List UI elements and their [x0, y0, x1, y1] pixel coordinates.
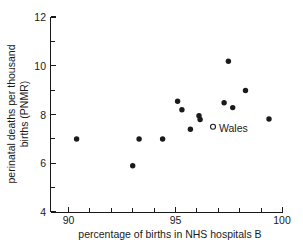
scatter-plot: 12 10 8 6 4 90 95 100 percentage of birt…: [0, 0, 303, 243]
y-axis-major-ticks: [51, 17, 57, 212]
data-point-wales: [211, 124, 216, 129]
data-point: [226, 59, 231, 64]
data-point: [266, 116, 271, 121]
data-point: [175, 99, 180, 104]
data-point: [221, 100, 226, 105]
y-ticklabel-12: 12: [34, 11, 46, 23]
x-ticklabel-95: 95: [170, 214, 182, 226]
chart-page: 12 10 8 6 4 90 95 100 percentage of birt…: [0, 0, 303, 243]
y-ticklabel-10: 10: [34, 60, 46, 72]
data-point: [136, 136, 141, 141]
annotation-wales-label: Wales: [219, 122, 248, 134]
data-point: [188, 127, 193, 132]
data-point: [160, 136, 165, 141]
x-axis-major-ticks: [69, 207, 283, 213]
y-ticklabel-6: 6: [40, 157, 46, 169]
data-point: [179, 107, 184, 112]
data-point: [243, 88, 248, 93]
x-ticklabel-100: 100: [273, 214, 291, 226]
x-axis-title: percentage of births in NHS hospitals B: [78, 228, 261, 240]
data-point: [74, 136, 79, 141]
y-axis-title-line1: perinatal deaths per thousand: [5, 44, 17, 183]
x-ticklabel-90: 90: [63, 214, 75, 226]
y-axis-title-line2: births (PNMR): [18, 81, 30, 148]
data-point: [130, 163, 135, 168]
y-ticklabel-8: 8: [40, 109, 46, 121]
data-point: [230, 105, 235, 110]
data-point: [197, 117, 202, 122]
data-points-filled: [74, 59, 272, 169]
y-ticklabel-4: 4: [40, 206, 46, 218]
